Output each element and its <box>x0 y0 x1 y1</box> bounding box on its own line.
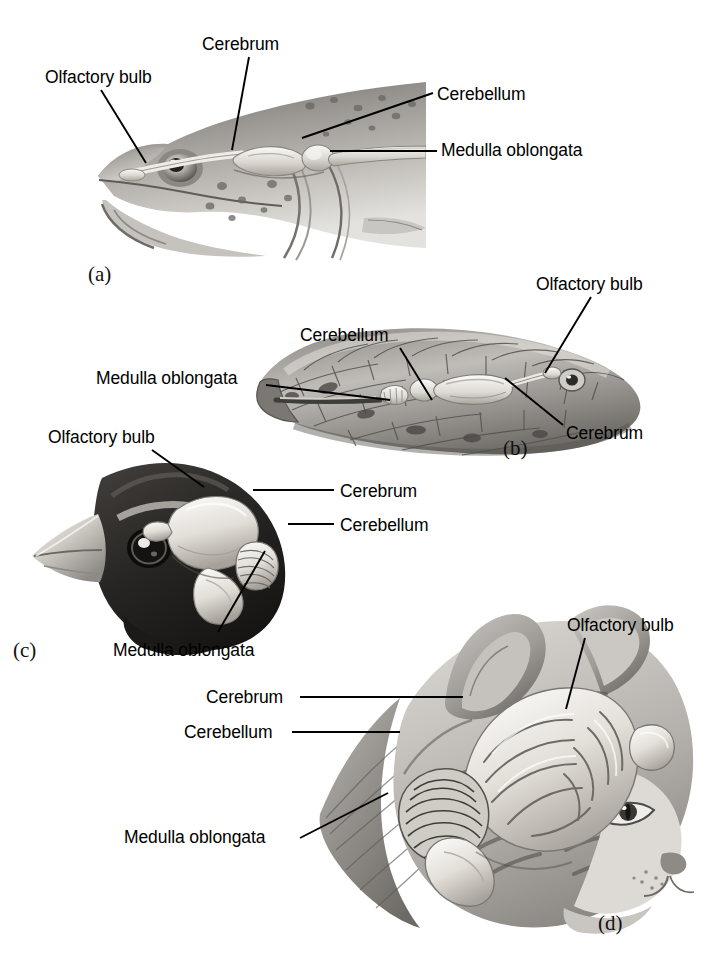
label-cat-olfactory-bulb: Olfactory bulb <box>567 616 674 635</box>
label-bird-cerebellum: Cerebellum <box>340 516 428 535</box>
label-bird-cerebrum: Cerebrum <box>340 482 417 501</box>
fish-illustration <box>96 58 426 273</box>
label-cat-cerebrum: Cerebrum <box>206 688 283 707</box>
panel-letter-d: (d) <box>598 911 623 936</box>
panel-letter-a: (a) <box>88 262 111 287</box>
label-fish-cerebrum: Cerebrum <box>202 35 279 54</box>
panel-letter-c: (c) <box>13 638 36 663</box>
label-fish-cerebellum: Cerebellum <box>437 85 525 104</box>
label-snake-cerebellum: Cerebellum <box>300 326 388 345</box>
label-snake-cerebrum: Cerebrum <box>566 424 643 443</box>
label-fish-olfactory-bulb: Olfactory bulb <box>45 68 152 87</box>
label-snake-medulla-oblongata: Medulla oblongata <box>96 369 237 388</box>
panel-letter-b: (b) <box>503 436 528 461</box>
label-bird-medulla-oblongata: Medulla oblongata <box>113 641 254 660</box>
label-bird-olfactory-bulb: Olfactory bulb <box>48 428 155 447</box>
label-snake-olfactory-bulb: Olfactory bulb <box>536 275 643 294</box>
comparative-brain-figure: Olfactory bulb Cerebrum Cerebellum Medul… <box>0 0 717 955</box>
label-fish-medulla-oblongata: Medulla oblongata <box>441 141 582 160</box>
bird-illustration <box>28 440 348 660</box>
label-cat-cerebellum: Cerebellum <box>184 723 272 742</box>
label-cat-medulla-oblongata: Medulla oblongata <box>124 828 265 847</box>
